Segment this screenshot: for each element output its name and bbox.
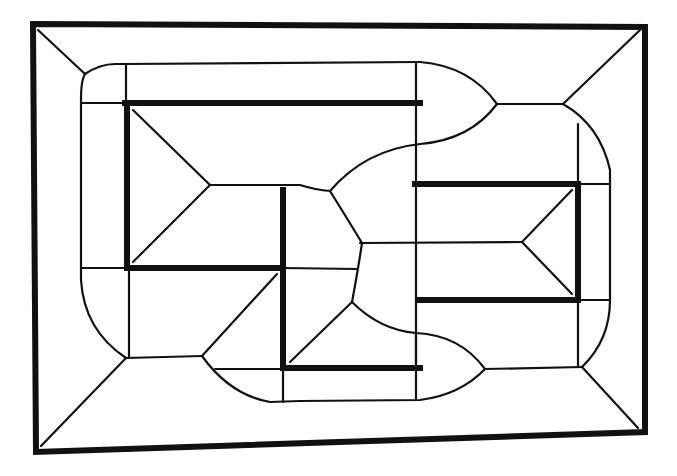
center-right-horizontal <box>360 242 522 243</box>
diagram-figure <box>0 0 677 476</box>
diagram-canvas <box>0 0 677 476</box>
center-mid-horizontal <box>283 268 357 269</box>
